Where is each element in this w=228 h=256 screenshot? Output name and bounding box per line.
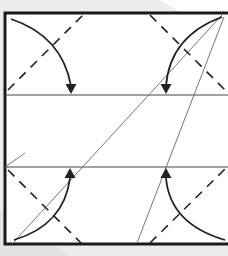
diagram-stage: Origami folding step: fold four corners … bbox=[0, 0, 228, 256]
paper-square bbox=[5, 13, 228, 244]
origami-diagram bbox=[0, 0, 228, 256]
